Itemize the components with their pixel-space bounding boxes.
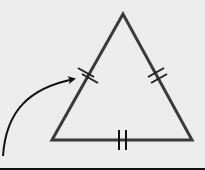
diagram-canvas xyxy=(0,0,205,170)
triangle-diagram xyxy=(0,0,205,170)
bottom-border-line xyxy=(0,168,205,170)
triangle-shape xyxy=(52,14,192,140)
